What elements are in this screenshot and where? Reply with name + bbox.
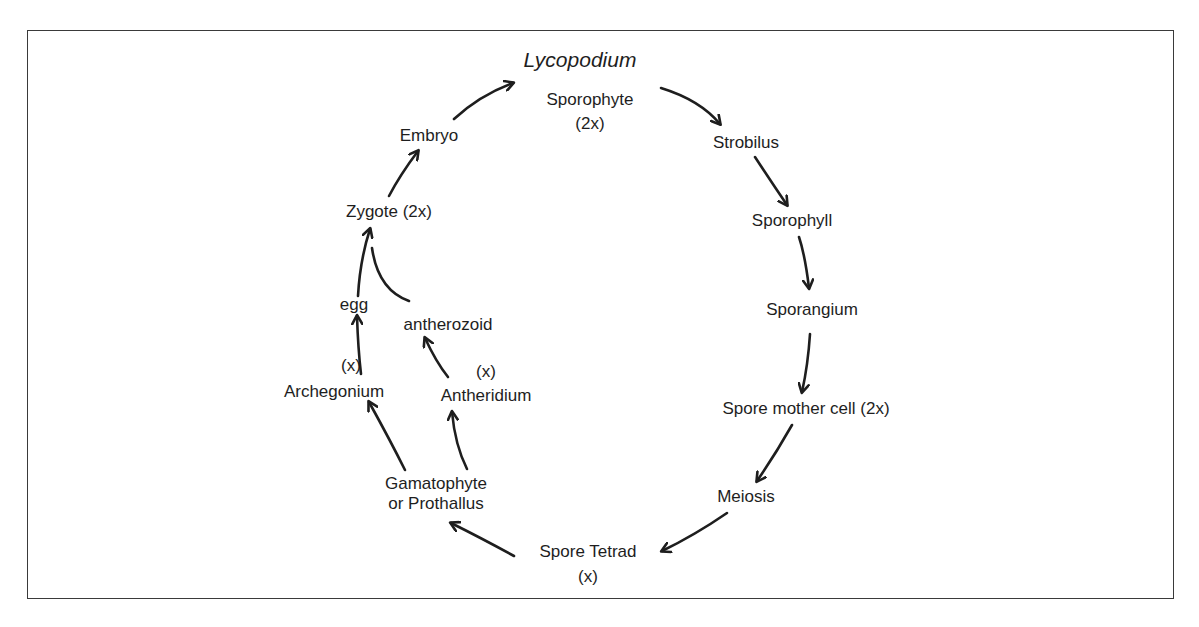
arrow-gametophyte-antheridium bbox=[452, 412, 467, 469]
node-antheridium-ploidy: (x) bbox=[476, 362, 496, 382]
arrow-antherozoid-zygote bbox=[372, 248, 409, 301]
arrow-tetrad-gametophyte bbox=[451, 523, 514, 556]
arrow-zygote-embryo bbox=[389, 151, 418, 196]
node-spore-tetrad-ploidy: (x) bbox=[539, 567, 636, 587]
arrow-meiosis-tetrad bbox=[662, 513, 727, 551]
node-gametophyte-label: Gamatophyte bbox=[385, 474, 487, 494]
node-sporangium: Sporangium bbox=[766, 300, 858, 320]
node-embryo: Embryo bbox=[400, 126, 459, 146]
node-archegonium: Archegonium bbox=[284, 382, 384, 402]
arrow-egg-zygote bbox=[358, 229, 370, 296]
arrow-embryo-sporophyte bbox=[454, 83, 513, 119]
arrow-gametophyte-archegonium bbox=[369, 402, 405, 470]
node-spore-tetrad: Spore Tetrad (x) bbox=[539, 542, 636, 587]
node-gametophyte: Gamatophyte or Prothallus bbox=[385, 474, 487, 514]
node-meiosis: Meiosis bbox=[717, 487, 775, 507]
node-egg: egg bbox=[340, 295, 368, 315]
node-strobilus: Strobilus bbox=[713, 133, 779, 153]
node-spore-tetrad-label: Spore Tetrad bbox=[539, 542, 636, 562]
node-sporophyte-ploidy: (2x) bbox=[547, 114, 634, 134]
node-antherozoid: antherozoid bbox=[404, 315, 493, 335]
node-spore-mother-cell: Spore mother cell (2x) bbox=[722, 399, 889, 419]
arrow-smc-meiosis bbox=[757, 425, 792, 481]
diagram-title: Lycopodium bbox=[524, 50, 637, 70]
arrow-sporophyll-sporangium bbox=[799, 237, 809, 288]
arrow-antheridium-antherozoid bbox=[425, 338, 448, 377]
node-gametophyte-label2: or Prothallus bbox=[385, 494, 487, 514]
node-zygote: Zygote (2x) bbox=[346, 202, 432, 222]
node-antheridium: Antheridium bbox=[441, 386, 532, 406]
node-archegonium-ploidy: (x) bbox=[341, 356, 361, 376]
arrow-sporangium-smc bbox=[802, 334, 810, 392]
node-sporophyte-label: Sporophyte bbox=[547, 90, 634, 110]
arrow-sporophyte-strobilus bbox=[661, 88, 720, 124]
node-sporophyte: Sporophyte (2x) bbox=[547, 90, 634, 134]
arrow-strobilus-sporophyll bbox=[755, 157, 787, 205]
node-sporophyll: Sporophyll bbox=[752, 211, 832, 231]
